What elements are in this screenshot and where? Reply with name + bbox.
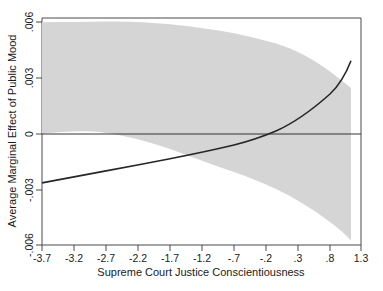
x-tick-label: -1.2 — [193, 252, 211, 264]
x-tick-label: -2.7 — [97, 252, 115, 264]
y-tick-label: .006 — [23, 12, 35, 33]
y-tick-label: -.003 — [23, 178, 35, 202]
x-tick-label: -2.2 — [129, 252, 147, 264]
x-tick-label: -.7 — [228, 252, 240, 264]
x-tick-label: -1.7 — [161, 252, 179, 264]
x-tick-label: .8 — [326, 252, 335, 264]
x-tick-label: -3.2 — [65, 252, 83, 264]
y-axis-title: Average Marginal Effect of Public Mood — [6, 35, 18, 228]
marginal-effects-plot: .006 .003 0 -.003 -.006 Average Marginal… — [0, 0, 383, 291]
x-tick-label: -.2 — [260, 252, 272, 264]
y-tick-label: 0 — [23, 131, 35, 137]
y-tick-label: .003 — [23, 68, 35, 89]
x-tick-label: 1.3 — [354, 252, 369, 264]
x-tick-label: -3.7 — [33, 252, 51, 264]
x-axis-title: Supreme Court Justice Conscientiousness — [97, 266, 305, 278]
x-tick-label: .3 — [294, 252, 303, 264]
chart-figure: .006 .003 0 -.003 -.006 Average Marginal… — [0, 0, 383, 291]
